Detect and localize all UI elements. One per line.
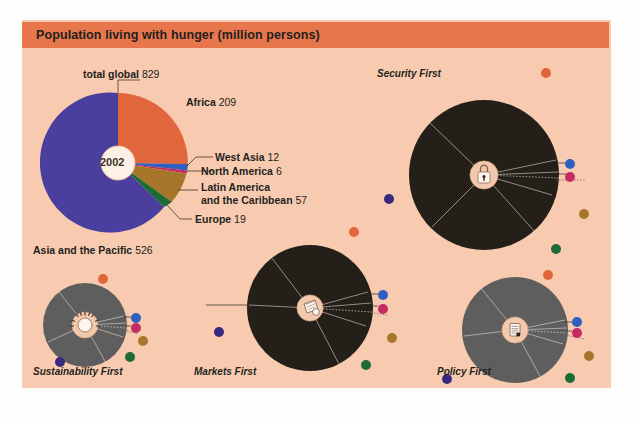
scenario-label-security-first: Security First bbox=[377, 68, 441, 79]
dot-west-asia bbox=[565, 159, 575, 169]
dot-europe bbox=[565, 373, 575, 383]
dot-latin-america bbox=[387, 333, 397, 343]
dot-latin-america bbox=[584, 351, 594, 361]
dot-europe bbox=[125, 352, 135, 362]
document-icon bbox=[510, 324, 520, 337]
dot-north-america bbox=[131, 323, 141, 333]
dot-africa bbox=[349, 227, 359, 237]
dot-west-asia bbox=[131, 313, 141, 323]
bubble-sustainability-first bbox=[43, 274, 148, 367]
dot-europe bbox=[551, 244, 561, 254]
bubble-security-first bbox=[384, 68, 589, 254]
dot-africa bbox=[98, 274, 108, 284]
scenario-label-sustainability-first: Sustainability First bbox=[33, 366, 122, 377]
bubble-markets-first bbox=[206, 227, 397, 371]
dot-europe bbox=[361, 360, 371, 370]
dot-africa bbox=[541, 68, 551, 78]
dot-north-america bbox=[565, 172, 575, 182]
dot-asia-pacific bbox=[214, 327, 224, 337]
scenario-bubbles bbox=[0, 0, 634, 424]
scenario-label-markets-first: Markets First bbox=[194, 366, 256, 377]
dot-asia-pacific bbox=[384, 194, 394, 204]
dot-north-america bbox=[378, 304, 388, 314]
dot-latin-america bbox=[579, 209, 589, 219]
dot-west-asia bbox=[378, 290, 388, 300]
scenario-label-policy-first: Policy First bbox=[437, 366, 491, 377]
infographic-root: Population living with hunger (million p… bbox=[0, 0, 634, 424]
dot-latin-america bbox=[138, 336, 148, 346]
dot-west-asia bbox=[572, 317, 582, 327]
dot-africa bbox=[543, 270, 553, 280]
dot-north-america bbox=[572, 328, 582, 338]
